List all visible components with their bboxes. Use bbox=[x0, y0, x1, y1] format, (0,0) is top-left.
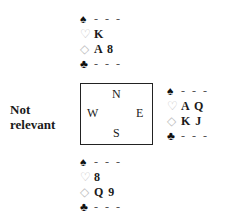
west-note-line-2: relevant bbox=[10, 117, 55, 132]
compass-north: N bbox=[112, 87, 121, 102]
north-hearts-row: ♡ K bbox=[80, 27, 122, 42]
south-spades-cards: - - - bbox=[94, 155, 122, 170]
north-diamonds-row: ◇ A 8 bbox=[80, 42, 122, 57]
north-hand: ♠ - - - ♡ K ◇ A 8 ♣ - - - bbox=[80, 12, 122, 72]
club-icon: ♣ bbox=[80, 200, 94, 215]
south-hearts-cards: 8 bbox=[94, 170, 101, 185]
north-clubs-row: ♣ - - - bbox=[80, 57, 122, 72]
north-clubs-cards: - - - bbox=[94, 57, 122, 72]
east-diamonds-cards: K J bbox=[181, 114, 202, 129]
table-compass-box: N W E S bbox=[80, 83, 153, 145]
east-diamonds-row: ◇ K J bbox=[167, 114, 209, 129]
north-diamonds-cards: A 8 bbox=[94, 42, 114, 57]
north-spades-cards: - - - bbox=[94, 12, 122, 27]
east-hand: ♠ - - - ♡ A Q ◇ K J ♣ - - - bbox=[167, 84, 209, 144]
east-spades-row: ♠ - - - bbox=[167, 84, 209, 99]
spade-icon: ♠ bbox=[167, 84, 181, 99]
diamond-icon: ◇ bbox=[80, 42, 94, 57]
south-spades-row: ♠ - - - bbox=[80, 155, 122, 170]
diamond-icon: ◇ bbox=[80, 185, 94, 200]
east-hearts-row: ♡ A Q bbox=[167, 99, 209, 114]
club-icon: ♣ bbox=[167, 129, 181, 144]
south-clubs-row: ♣ - - - bbox=[80, 200, 122, 215]
compass-east: E bbox=[136, 106, 143, 121]
south-hearts-row: ♡ 8 bbox=[80, 170, 122, 185]
diamond-icon: ◇ bbox=[167, 114, 181, 129]
heart-icon: ♡ bbox=[167, 99, 181, 114]
south-diamonds-cards: Q 9 bbox=[94, 185, 115, 200]
heart-icon: ♡ bbox=[80, 27, 94, 42]
heart-icon: ♡ bbox=[80, 170, 94, 185]
north-spades-row: ♠ - - - bbox=[80, 12, 122, 27]
compass-west: W bbox=[87, 106, 98, 121]
spade-icon: ♠ bbox=[80, 155, 94, 170]
south-hand: ♠ - - - ♡ 8 ◇ Q 9 ♣ - - - bbox=[80, 155, 122, 215]
club-icon: ♣ bbox=[80, 57, 94, 72]
south-diamonds-row: ◇ Q 9 bbox=[80, 185, 122, 200]
east-clubs-row: ♣ - - - bbox=[167, 129, 209, 144]
north-hearts-cards: K bbox=[94, 27, 104, 42]
compass-south: S bbox=[113, 126, 120, 141]
east-spades-cards: - - - bbox=[181, 84, 209, 99]
spade-icon: ♠ bbox=[80, 12, 94, 27]
east-hearts-cards: A Q bbox=[181, 99, 204, 114]
west-note-line-1: Not bbox=[10, 102, 55, 117]
west-note: Not relevant bbox=[10, 102, 55, 132]
east-clubs-cards: - - - bbox=[181, 129, 209, 144]
south-clubs-cards: - - - bbox=[94, 200, 122, 215]
